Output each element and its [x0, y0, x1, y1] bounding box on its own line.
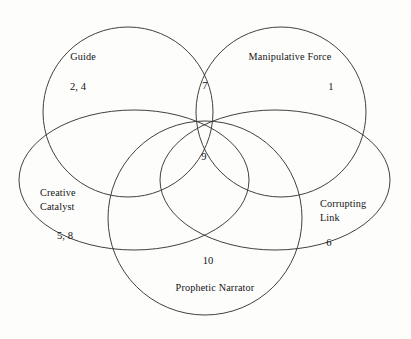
region-count-corrupting-link: 6: [326, 237, 331, 248]
region-count-guide: 2, 4: [70, 81, 87, 92]
region-count-guide-manipulative: 7: [202, 80, 207, 91]
set-label-creative-catalyst-line2: Catalyst: [40, 201, 75, 212]
region-count-prophetic-narrator: 10: [203, 255, 214, 266]
set-label-creative-catalyst-line1: Creative: [40, 187, 76, 198]
set-label-manipulative-force: Manipulative Force: [249, 51, 332, 62]
set-label-prophetic-narrator: Prophetic Narrator: [176, 282, 255, 293]
set-outline-guide[interactable]: [43, 27, 213, 197]
venn-diagram-canvas: Guide 2, 4 Manipulative Force 1 Creative…: [0, 0, 411, 339]
set-label-corrupting-link-line2: Link: [320, 212, 341, 223]
set-label-corrupting-link-line1: Corrupting: [320, 198, 366, 209]
set-label-guide: Guide: [70, 51, 96, 62]
venn-outlines: [19, 27, 390, 315]
set-outline-corrupting-link[interactable]: [160, 110, 390, 250]
region-count-creative-catalyst: 5, 8: [57, 230, 73, 241]
region-count-center-all: 9: [201, 151, 206, 162]
region-count-manipulative-force: 1: [328, 81, 333, 92]
set-outline-creative-catalyst[interactable]: [19, 110, 249, 250]
